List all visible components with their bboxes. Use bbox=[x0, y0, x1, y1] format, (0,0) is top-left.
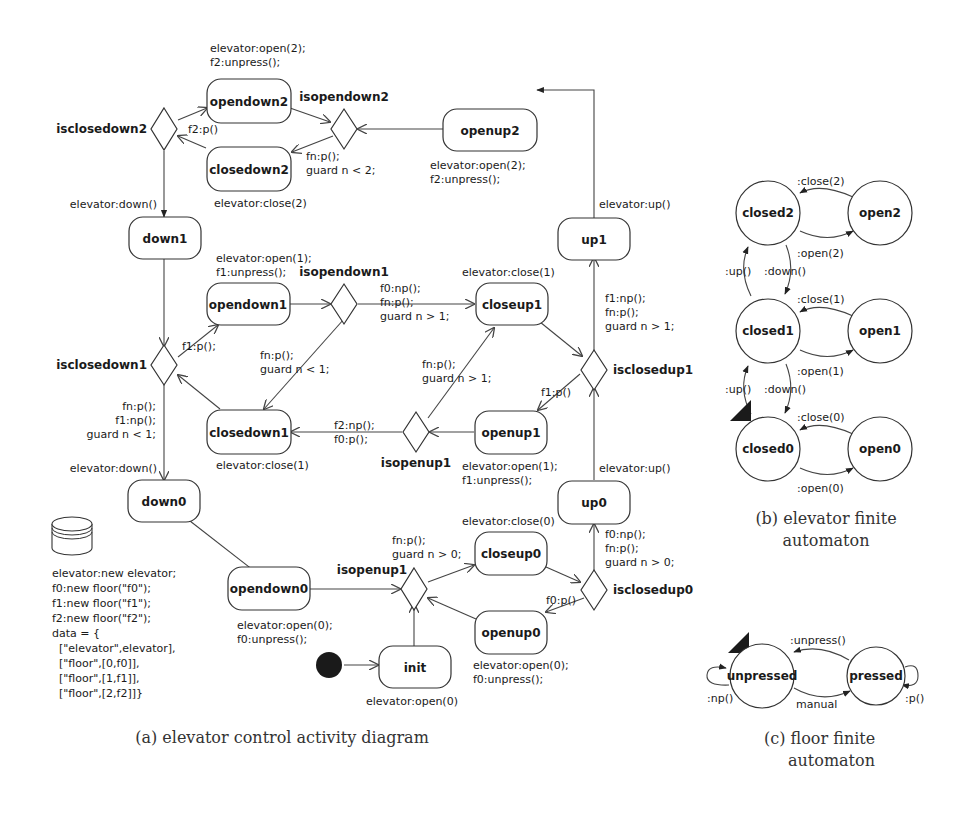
state-closedown1: closedown1 bbox=[207, 410, 291, 454]
svg-text:elevator:close(0): elevator:close(0) bbox=[462, 515, 555, 528]
svg-text:elevator:close(1): elevator:close(1) bbox=[462, 266, 555, 279]
svg-text:openup1: openup1 bbox=[482, 426, 541, 440]
decision-isopenup0: isopenup1 bbox=[337, 563, 427, 610]
svg-text:guard n > 1;: guard n > 1; bbox=[380, 310, 449, 323]
datastore-text: elevator:new elevator; f0:new floor("f0"… bbox=[52, 567, 176, 700]
svg-text:f0:p();: f0:p(); bbox=[334, 433, 368, 446]
svg-text:isclosedup1: isclosedup1 bbox=[613, 363, 693, 377]
svg-text:opendown0: opendown0 bbox=[230, 582, 308, 596]
svg-text:up0: up0 bbox=[581, 496, 606, 510]
svg-text:closed2: closed2 bbox=[742, 206, 794, 220]
initial-node bbox=[316, 652, 342, 678]
svg-text:init: init bbox=[404, 661, 427, 675]
decision-isclosedown1: isclosedown1 bbox=[56, 345, 177, 385]
caption-b-line2: automaton bbox=[783, 531, 870, 550]
svg-text:guard n > 1;: guard n > 1; bbox=[422, 372, 491, 385]
state-openup1: openup1 bbox=[475, 411, 547, 454]
svg-text:fn:p();: fn:p(); bbox=[380, 296, 414, 309]
svg-text::down(): :down() bbox=[764, 265, 806, 278]
svg-text:f1:new floor("f1");: f1:new floor("f1"); bbox=[52, 597, 151, 610]
svg-text:closed0: closed0 bbox=[742, 442, 794, 456]
svg-text::close(0): :close(0) bbox=[797, 411, 845, 424]
svg-text:open0: open0 bbox=[859, 442, 901, 456]
svg-text:elevator:down(): elevator:down() bbox=[70, 198, 157, 211]
svg-text:f1:p();: f1:p(); bbox=[182, 340, 216, 353]
svg-text:["elevator",elevator],: ["elevator",elevator], bbox=[52, 642, 176, 655]
state-opendown0: opendown0 bbox=[228, 567, 310, 610]
state-opendown1: opendown1 bbox=[207, 283, 290, 325]
svg-text::np(): :np() bbox=[707, 692, 733, 705]
svg-text:up1: up1 bbox=[581, 233, 606, 247]
decision-isopenup1: isopenup1 bbox=[381, 412, 451, 470]
svg-text:f1:unpress();: f1:unpress(); bbox=[216, 266, 286, 279]
caption-c-line1: (c) floor finite bbox=[764, 729, 875, 748]
decision-isclosedown2: isclosedown2 bbox=[56, 108, 177, 150]
svg-text:f2:np();: f2:np(); bbox=[334, 419, 375, 432]
svg-text:f1:unpress();: f1:unpress(); bbox=[462, 474, 532, 487]
svg-text:opendown2: opendown2 bbox=[210, 95, 288, 109]
svg-text:f1:np();: f1:np(); bbox=[115, 414, 156, 427]
svg-text:f2:unpress();: f2:unpress(); bbox=[430, 173, 500, 186]
svg-text:open1: open1 bbox=[859, 324, 901, 338]
svg-text:guard n > 0;: guard n > 0; bbox=[605, 556, 674, 569]
svg-text:isopenup1: isopenup1 bbox=[337, 563, 407, 577]
svg-text:openup0: openup0 bbox=[482, 626, 541, 640]
caption-c-line2: automaton bbox=[788, 751, 875, 770]
svg-text:fn:p();: fn:p(); bbox=[605, 306, 639, 319]
svg-text:f0:unpress();: f0:unpress(); bbox=[473, 673, 543, 686]
svg-text:closeup1: closeup1 bbox=[482, 298, 542, 312]
svg-text:isopendown2: isopendown2 bbox=[299, 90, 389, 104]
svg-text:elevator:open(0): elevator:open(0) bbox=[366, 695, 458, 708]
state-closeup1: closeup1 bbox=[476, 283, 548, 325]
svg-text:isclosedown2: isclosedown2 bbox=[56, 122, 147, 136]
svg-text:manual: manual bbox=[796, 698, 837, 711]
floor-fa: unpressed pressed :unpress() manual :np(… bbox=[707, 632, 924, 711]
state-down0: down0 bbox=[128, 480, 200, 522]
svg-text:down1: down1 bbox=[143, 232, 188, 246]
svg-text:guard n < 1;: guard n < 1; bbox=[260, 363, 329, 376]
svg-text::p(): :p() bbox=[905, 692, 924, 705]
svg-text:isclosedown1: isclosedown1 bbox=[56, 358, 147, 372]
svg-text:openup2: openup2 bbox=[461, 124, 520, 138]
svg-text:f0:p(): f0:p() bbox=[546, 594, 576, 607]
svg-text:open2: open2 bbox=[859, 206, 901, 220]
svg-text:f2:unpress();: f2:unpress(); bbox=[210, 56, 280, 69]
svg-text:isopenup1: isopenup1 bbox=[381, 456, 451, 470]
svg-text:guard n < 1;: guard n < 1; bbox=[87, 428, 156, 441]
svg-text:elevator:new elevator;: elevator:new elevator; bbox=[52, 567, 176, 580]
svg-text:fn:p();: fn:p(); bbox=[422, 358, 456, 371]
svg-text:f2:new floor("f2");: f2:new floor("f2"); bbox=[52, 612, 151, 625]
state-closeup0: closeup0 bbox=[475, 532, 547, 575]
svg-text:fn:p();: fn:p(); bbox=[605, 542, 639, 555]
svg-text::open(1): :open(1) bbox=[797, 365, 844, 378]
svg-text:unpressed: unpressed bbox=[727, 669, 798, 683]
svg-text:guard n > 1;: guard n > 1; bbox=[605, 320, 674, 333]
svg-text:f0:new floor("f0");: f0:new floor("f0"); bbox=[52, 582, 151, 595]
svg-text:f0:np();: f0:np(); bbox=[380, 282, 421, 295]
datastore-icon bbox=[52, 517, 92, 555]
svg-text:opendown1: opendown1 bbox=[209, 298, 287, 312]
svg-text:elevator:open(1);: elevator:open(1); bbox=[216, 252, 312, 265]
state-opendown2: opendown2 bbox=[207, 79, 291, 123]
svg-text:f1:np();: f1:np(); bbox=[605, 292, 646, 305]
svg-text:["floor",[2,f2]]}: ["floor",[2,f2]]} bbox=[52, 687, 143, 700]
svg-text:closeup0: closeup0 bbox=[481, 547, 541, 561]
state-up0: up0 bbox=[558, 481, 630, 524]
svg-text:guard n > 0;: guard n > 0; bbox=[392, 548, 461, 561]
svg-text:closedown1: closedown1 bbox=[209, 426, 289, 440]
elevator-fa: closed2 open2 closed1 open1 closed0 open… bbox=[725, 175, 912, 495]
svg-text:f1:p(): f1:p() bbox=[541, 386, 571, 399]
svg-text:data = {: data = { bbox=[52, 627, 100, 640]
svg-text:elevator:close(2): elevator:close(2) bbox=[214, 197, 307, 210]
svg-text:f0:np();: f0:np(); bbox=[605, 528, 646, 541]
svg-text:elevator:open(0);: elevator:open(0); bbox=[237, 619, 333, 632]
decision-isclosedup0: isclosedup0 bbox=[581, 570, 693, 610]
svg-text::open(0): :open(0) bbox=[797, 482, 844, 495]
diagram-canvas: opendown2 closedown2 openup2 down1 up1 o… bbox=[0, 0, 962, 815]
caption-b-line1: (b) elevator finite bbox=[755, 509, 896, 528]
svg-text:elevator:up(): elevator:up() bbox=[599, 462, 670, 475]
svg-text::open(2): :open(2) bbox=[797, 247, 844, 260]
caption-a: (a) elevator control activity diagram bbox=[135, 728, 429, 747]
svg-text:elevator:open(2);: elevator:open(2); bbox=[430, 159, 526, 172]
svg-text:fn:p();: fn:p(); bbox=[260, 349, 294, 362]
